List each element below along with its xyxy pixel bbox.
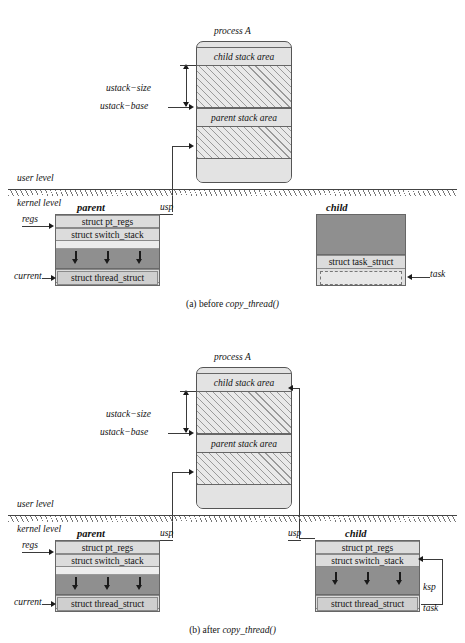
current-pointer-label: current: [14, 272, 42, 282]
ustack-base-label: ustack−base: [100, 428, 148, 438]
stack-growth-arrow-head: [136, 259, 142, 264]
stack-growth-arrow-head: [104, 585, 110, 590]
task-pointer-label: task: [423, 604, 438, 614]
ksp-pointer-arrow: [418, 556, 423, 562]
regs-pointer-arrow: [49, 549, 54, 555]
row-label: struct thread_struct: [71, 273, 144, 283]
stack-growth-arrow-head: [72, 585, 78, 590]
segment-label: parent stack area: [211, 113, 277, 123]
process-a-memory-box: child stack area parent stack area: [196, 367, 292, 509]
ksp-pointer-label: ksp: [423, 583, 436, 593]
row-label: struct thread_struct: [331, 599, 404, 609]
segment-hatch-upper: [197, 66, 291, 108]
child-row-unused: [317, 215, 405, 255]
figure-before-copy-thread: process A child stack area parent stack …: [0, 0, 465, 320]
parent-row-pt-regs: struct pt_regs: [56, 215, 159, 228]
ustack-size-tick-top: [180, 391, 196, 392]
task-pointer-arrow: [407, 274, 412, 280]
parent-row-gap: [56, 567, 159, 575]
ksp-pointer-top: [423, 559, 443, 560]
row-label: struct pt_regs: [82, 217, 133, 227]
stack-growth-arrow-head: [72, 259, 78, 264]
parent-row-switch-stack: struct switch_stack: [56, 554, 159, 567]
parent-row-free-stack: [56, 575, 159, 595]
child-row-switch-stack: struct switch_stack: [316, 554, 419, 567]
user-kernel-divider-hatch: [8, 516, 457, 522]
figure-a-caption: (a) before copy_thread(): [0, 299, 465, 309]
segment-blank: [197, 485, 291, 509]
row-label: struct switch_stack: [331, 556, 404, 566]
segment-blank: [197, 159, 291, 183]
regs-pointer-label: regs: [22, 215, 38, 227]
child-title: child: [345, 529, 367, 540]
segment-label: child stack area: [214, 378, 274, 388]
segment-hatch-upper: [197, 392, 291, 434]
parent-row-thread-struct: struct thread_struct: [57, 271, 158, 285]
segment-hatch-lower: [197, 453, 291, 485]
child-title: child: [326, 203, 348, 214]
child-row-task-struct: struct task_struct: [317, 255, 405, 269]
segment-parent-stack-area: parent stack area: [197, 434, 291, 453]
figure-b-caption: (b) after copy_thread(): [0, 625, 465, 635]
segment-hatch-lower: [197, 127, 291, 159]
parent-usp-connector-horizontal: [172, 472, 190, 473]
child-row-free-stack: [316, 567, 419, 595]
parent-row-thread-struct: struct thread_struct: [57, 597, 158, 611]
stack-growth-arrow-head: [104, 259, 110, 264]
parent-row-free-stack: [56, 249, 159, 269]
regs-pointer-line: [22, 226, 50, 227]
ustack-base-line: [168, 107, 190, 108]
child-usp-connector-horizontal: [292, 388, 300, 389]
caption-prefix: (a) before: [186, 299, 226, 309]
regs-pointer-label: regs: [22, 541, 38, 553]
row-label: struct switch_stack: [71, 556, 144, 566]
caption-function: copy_thread(): [222, 625, 275, 635]
segment-parent-stack-area: parent stack area: [197, 108, 291, 127]
usp-pointer-label: usp: [160, 203, 173, 215]
process-a-title: process A: [214, 27, 251, 37]
ksp-pointer-vertical: [442, 559, 443, 604]
child-usp-pointer-label: usp: [288, 529, 301, 541]
ustack-base-arrow: [189, 430, 194, 436]
ustack-size-label: ustack−size: [106, 410, 151, 420]
user-level-label: user level: [17, 174, 54, 184]
parent-row-switch-stack: struct switch_stack: [56, 228, 159, 241]
ustack-base-arrow: [189, 104, 194, 110]
child-stack-box: struct task_struct: [316, 214, 406, 286]
caption-prefix: (b) after: [189, 625, 222, 635]
child-row-thread-struct-placeholder: [320, 271, 402, 285]
segment-child-stack-area: child stack area: [197, 47, 291, 66]
ustack-size-tick-top: [180, 65, 196, 66]
segment-label: child stack area: [214, 52, 274, 62]
child-row-thread-struct: struct thread_struct: [317, 597, 418, 611]
current-pointer-label: current: [14, 598, 42, 608]
stack-growth-arrow-head: [364, 580, 370, 585]
row-label: struct switch_stack: [71, 230, 144, 240]
parent-usp-connector-arrow: [189, 469, 194, 475]
parent-row-gap: [56, 241, 159, 249]
kernel-level-label: kernel level: [17, 199, 61, 209]
process-a-memory-box: child stack area parent stack area: [196, 41, 292, 183]
caption-function: copy_thread(): [226, 299, 279, 309]
figure-after-copy-thread: process A child stack area parent stack …: [0, 320, 465, 643]
parent-row-pt-regs: struct pt_regs: [56, 541, 159, 554]
usp-connector-horizontal: [172, 146, 190, 147]
task-pointer-line: [412, 277, 430, 278]
current-pointer-arrow: [51, 275, 56, 281]
ustack-size-dim-line: [186, 394, 187, 432]
row-label: struct pt_regs: [342, 543, 393, 553]
ustack-size-label: ustack−size: [106, 84, 151, 94]
ustack-size-dim-line: [186, 68, 187, 106]
child-row-pt-regs: struct pt_regs: [316, 541, 419, 554]
current-pointer-arrow: [51, 601, 56, 607]
segment-child-stack-area: child stack area: [197, 373, 291, 392]
usp-connector-arrow: [189, 143, 194, 149]
stack-growth-arrow-head: [332, 580, 338, 585]
child-usp-connector-foot: [299, 538, 315, 539]
regs-pointer-arrow: [49, 223, 54, 229]
stack-growth-arrow-head: [136, 585, 142, 590]
row-label: struct thread_struct: [71, 599, 144, 609]
row-label: struct task_struct: [329, 257, 394, 267]
parent-title: parent: [77, 203, 105, 214]
user-kernel-divider-hatch: [8, 190, 457, 196]
